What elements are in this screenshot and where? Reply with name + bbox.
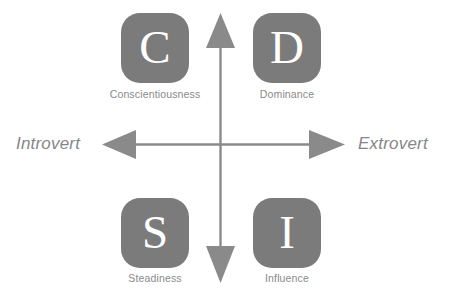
arrow-down-icon xyxy=(206,246,235,283)
arrow-right-icon xyxy=(309,130,345,159)
arrow-up-icon xyxy=(206,13,235,48)
axis-cross xyxy=(0,0,455,308)
arrow-left-icon xyxy=(102,130,136,159)
quadrant-letter-i: I xyxy=(279,209,295,256)
axis-label-extrovert: Extrovert xyxy=(358,134,428,154)
quadrant-letter-c: C xyxy=(139,24,170,71)
quadrant-caption-steadiness: Steadiness xyxy=(128,272,181,284)
quadrant-letter-d: D xyxy=(270,24,304,71)
axis-label-introvert: Introvert xyxy=(16,134,80,154)
quadrant-letter-s: S xyxy=(142,209,168,256)
quadrant-tile-steadiness[interactable]: S xyxy=(121,198,189,268)
quadrant-tile-dominance[interactable]: D xyxy=(253,13,321,83)
quadrant-caption-influence: Influence xyxy=(265,272,309,284)
disc-quadrant-diagram: C D S I Conscientiousness Dominance Stea… xyxy=(0,0,455,308)
quadrant-caption-dominance: Dominance xyxy=(260,88,314,100)
quadrant-tile-conscientiousness[interactable]: C xyxy=(121,13,189,83)
quadrant-caption-conscientiousness: Conscientiousness xyxy=(110,88,201,100)
quadrant-tile-influence[interactable]: I xyxy=(253,198,321,268)
